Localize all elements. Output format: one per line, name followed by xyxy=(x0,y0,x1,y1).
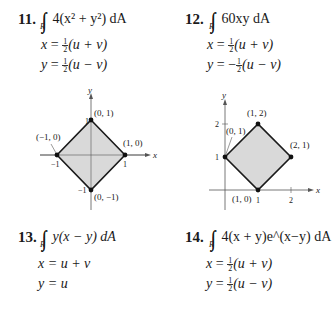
vertex-label: (0, 1) xyxy=(226,126,246,136)
tick-label: 1 xyxy=(215,153,219,162)
vertex-point xyxy=(289,155,294,160)
expr: (u + v) xyxy=(233,256,272,271)
substitution-x: x = u + v xyxy=(38,256,90,272)
double-integral: ∫∫R y(x − y) dA xyxy=(42,228,116,250)
problem-number: 13. xyxy=(18,229,37,246)
problem-number: 14. xyxy=(185,229,204,246)
vertex-label: (2, 1) xyxy=(290,140,310,150)
region-label: R xyxy=(40,240,45,249)
substitution-x: x = 12(u + v) xyxy=(206,256,272,272)
tick-label: 2 xyxy=(289,196,293,205)
vertex-point xyxy=(256,122,261,127)
tick-label: 1 xyxy=(256,196,260,205)
vertex-label: (1, 2) xyxy=(247,108,267,118)
vertex-point xyxy=(256,188,261,193)
vertex-label: (1, 0) xyxy=(232,194,252,204)
x-axis-arrow-icon xyxy=(308,188,314,192)
graph-problem-12: y x 2 1 1 2 (1, 2) (2, 1) (1, 0) (0, 1) xyxy=(0,0,334,225)
integrand: 4(x + y)e^(x−y) dA xyxy=(221,229,331,244)
y-axis-label: y xyxy=(221,90,226,100)
substitution-y: y = 12(u − v) xyxy=(206,276,272,292)
integrand: y(x − y) dA xyxy=(52,229,115,244)
substitution-y: y = u xyxy=(38,276,68,292)
region-label: R xyxy=(209,240,214,249)
double-integral: ∫∫R 4(x + y)e^(x−y) dA xyxy=(211,228,331,250)
vertex-point xyxy=(223,155,228,160)
tick-label: 2 xyxy=(215,120,219,129)
expr: (u − v) xyxy=(233,276,272,291)
x-axis-label: x xyxy=(315,185,320,195)
